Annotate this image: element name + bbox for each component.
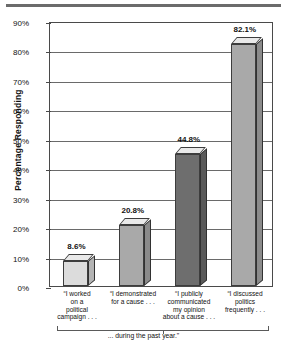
category-label-line: on a: [49, 298, 105, 306]
category-label: “I discussedpoliticsfrequently . . .: [217, 290, 273, 313]
bar-front-face: [175, 154, 200, 286]
bar-side-face: [256, 38, 263, 286]
bar-side-face: [144, 219, 151, 286]
bar-value-label: 44.8%: [177, 135, 200, 144]
y-tick-mark: [46, 52, 51, 53]
category-label-line: about a cause . . .: [161, 313, 217, 321]
y-tick-mark: [46, 200, 51, 201]
bars-group: 8.6%20.8%44.8%82.1%: [50, 23, 272, 286]
category-label-line: politics: [217, 298, 273, 306]
category-label-line: “I demonstrated: [105, 290, 161, 298]
category-label: “I demonstratedfor a cause . . .: [105, 290, 161, 306]
y-tick-label: 60%: [0, 107, 29, 116]
category-label-line: political: [49, 306, 105, 314]
y-tick-label: 20%: [0, 225, 29, 234]
chart-caption: ... during the past year.": [0, 332, 287, 339]
bar-value-label: 20.8%: [121, 206, 144, 215]
category-label-line: frequently . . .: [217, 306, 273, 314]
top-divider-rule: [6, 4, 281, 7]
y-tick-label: 0%: [0, 284, 29, 293]
y-tick-mark: [46, 229, 51, 230]
bar[interactable]: 20.8%: [119, 225, 144, 286]
y-tick-label: 50%: [0, 136, 29, 145]
category-label-line: “I worked: [49, 290, 105, 298]
bar-top-face: [63, 254, 94, 261]
bar[interactable]: 82.1%: [231, 44, 256, 286]
bar-front-face: [231, 44, 256, 286]
category-label-line: my opinion: [161, 306, 217, 314]
y-tick-mark: [46, 111, 51, 112]
category-label: “I publiclycommunicatedmy opinionabout a…: [161, 290, 217, 321]
chart-plot-area: 8.6%20.8%44.8%82.1% 0%10%20%30%40%50%60%…: [49, 22, 273, 287]
y-tick-mark: [46, 23, 51, 24]
category-label: “I workedon apoliticalcampaign . . .: [49, 290, 105, 321]
category-label-line: “I discussed: [217, 290, 273, 298]
y-tick-mark: [46, 259, 51, 260]
bar[interactable]: 8.6%: [63, 261, 88, 286]
category-label-line: “I publicly: [161, 290, 217, 298]
y-tick-mark: [46, 82, 51, 83]
y-tick-label: 90%: [0, 19, 29, 28]
category-label-line: campaign . . .: [49, 313, 105, 321]
y-tick-mark: [46, 288, 51, 289]
category-label-line: for a cause . . .: [105, 298, 161, 306]
y-tick-label: 70%: [0, 77, 29, 86]
bar-front-face: [119, 225, 144, 286]
y-tick-label: 40%: [0, 166, 29, 175]
y-tick-label: 30%: [0, 195, 29, 204]
bar-value-label: 82.1%: [233, 25, 256, 34]
bar-value-label: 8.6%: [67, 242, 85, 251]
category-label-line: communicated: [161, 298, 217, 306]
bar-side-face: [200, 148, 207, 286]
y-tick-mark: [46, 170, 51, 171]
bar-top-face: [119, 218, 150, 225]
bar[interactable]: 44.8%: [175, 154, 200, 286]
y-tick-mark: [46, 141, 51, 142]
category-labels-group: “I workedon apoliticalcampaign . . .“I d…: [49, 290, 273, 326]
bar-top-face: [175, 147, 206, 154]
bar-front-face: [63, 261, 88, 286]
y-tick-label: 80%: [0, 48, 29, 57]
y-tick-label: 10%: [0, 254, 29, 263]
